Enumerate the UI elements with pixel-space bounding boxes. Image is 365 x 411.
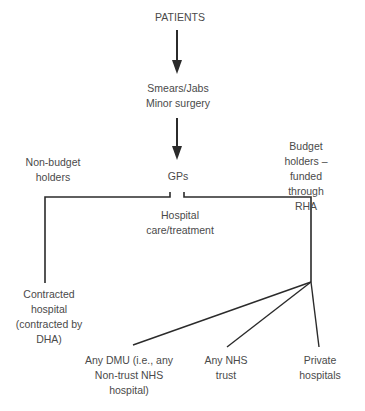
node-private-hospitals: Private hospitals	[299, 353, 340, 383]
node-any-nhs-trust: Any NHS trust	[204, 353, 247, 383]
arrow-patients-to-smears	[172, 30, 182, 74]
node-smears-minor-surgery: Smears/Jabs Minor surgery	[146, 81, 210, 111]
diagram-canvas: PATIENTS Smears/Jabs Minor surgery GPs N…	[0, 0, 365, 411]
label-non-budget-holders: Non-budget holders	[26, 155, 81, 185]
budget-holder-fan	[133, 282, 319, 347]
label-hospital-care-treatment: Hospital care/treatment	[146, 208, 214, 238]
node-contracted-hospital: Contracted hospital (contracted by DHA)	[16, 287, 83, 347]
node-any-dmu: Any DMU (i.e., any Non-trust NHS hospita…	[85, 353, 173, 398]
arrow-smears-to-gps	[172, 118, 182, 160]
node-gps: GPs	[168, 169, 188, 184]
label-budget-holders: Budget holders – funded through RHA	[277, 139, 336, 214]
node-patients: PATIENTS	[155, 10, 205, 25]
